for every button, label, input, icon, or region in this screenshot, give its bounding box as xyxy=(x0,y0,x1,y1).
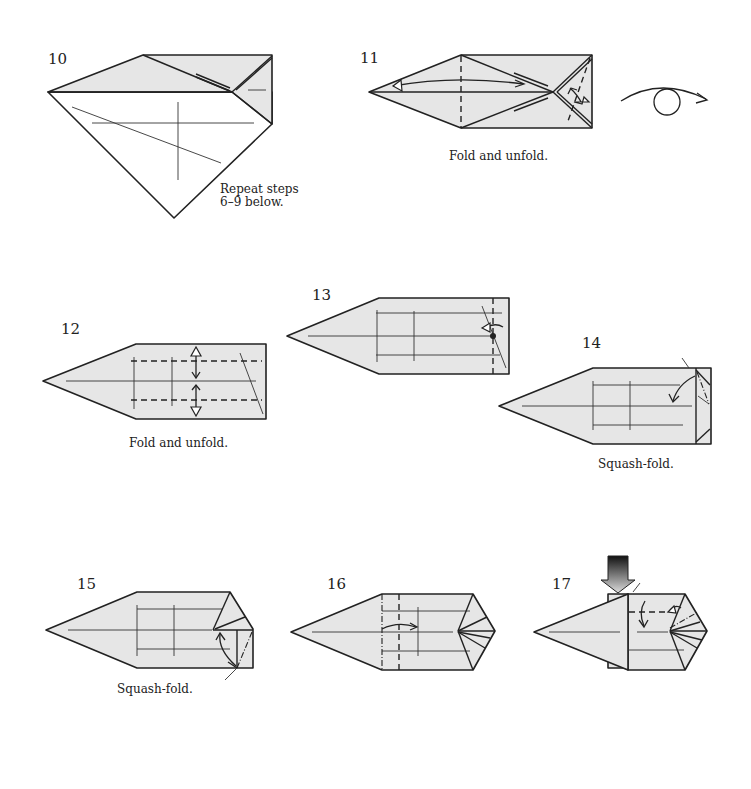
step-13-pivot-dot xyxy=(490,333,496,339)
step-13-diagram xyxy=(287,298,509,374)
step-10-diagram xyxy=(48,55,272,218)
step-16-diagram xyxy=(291,594,495,670)
step-14-diagram xyxy=(499,358,711,444)
step-17-diagram xyxy=(534,556,707,670)
step-15-diagram xyxy=(46,592,253,680)
push-arrow-icon xyxy=(601,556,635,593)
step-11-diagram xyxy=(369,55,707,128)
step-12-diagram xyxy=(43,344,266,419)
diagram-canvas xyxy=(0,0,751,789)
